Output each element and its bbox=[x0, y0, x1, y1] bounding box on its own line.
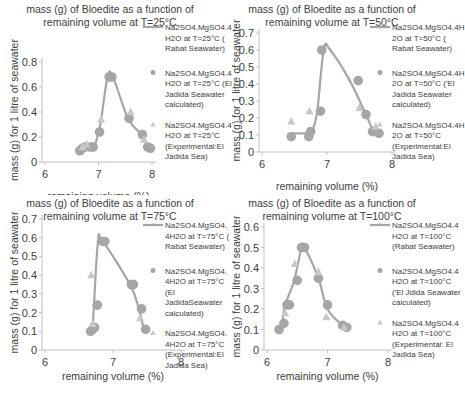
triangle-marker-icon bbox=[281, 309, 289, 317]
legend-label: Na2SO4.MgSO4.4 bbox=[392, 267, 459, 276]
legend-label: 2O at T=50°C ( bbox=[392, 34, 446, 43]
y-axis-label: mass (g) for 1 litre of seawater bbox=[232, 215, 242, 357]
y-tick-label: 0.2 bbox=[22, 307, 37, 319]
y-tick-label: 0.6 bbox=[22, 81, 37, 93]
y-tick-label: 0 bbox=[31, 156, 37, 168]
legend: Na2SO4.MgSO4.4H2O at T=50°C (Rabat Seawa… bbox=[370, 23, 465, 161]
y-axis-label: mass (g) for 1 litre of seawater bbox=[8, 39, 20, 181]
legend-label: 2O at T=50°C bbox=[392, 131, 441, 140]
legend-label: Rabat Seawater) bbox=[165, 242, 225, 251]
triangle-marker-icon bbox=[150, 330, 155, 335]
circle-marker-icon bbox=[138, 130, 148, 140]
chart-panel-4: mass (g) of Bloedite as a function ofrem… bbox=[232, 195, 465, 395]
x-axis-label: remaining volume (%) bbox=[276, 370, 378, 382]
circle-marker-icon bbox=[141, 325, 151, 335]
chart-title: remaining volume at T=75°C bbox=[43, 210, 177, 222]
legend-label: H2O at T=100°C bbox=[392, 329, 452, 338]
y-tick-label: 0.1 bbox=[244, 324, 259, 336]
circle-marker-icon bbox=[323, 300, 333, 310]
legend-label: (Rabat Seawater) bbox=[392, 242, 455, 251]
x-axis-label: remaining volume (%) bbox=[62, 370, 164, 382]
chart-title: mass (g) of Bloedite as a function of bbox=[248, 3, 416, 15]
legend-label: (Experimental:El bbox=[165, 142, 224, 151]
y-tick-label: 0.5 bbox=[22, 250, 37, 262]
legend: Na2SO4.MgSO4.4H2O at T=75°C (Rabat Seawa… bbox=[143, 221, 230, 370]
y-tick-label: 0.6 bbox=[244, 221, 259, 233]
circle-marker-icon bbox=[95, 127, 105, 137]
legend-label: H2O at T=25°C (El bbox=[165, 79, 232, 88]
legend-label: Na2SO4.MgSO4.4H bbox=[392, 69, 465, 78]
circle-marker-icon bbox=[146, 143, 156, 153]
circle-marker-icon bbox=[93, 300, 103, 310]
x-tick-label: 7 bbox=[324, 356, 330, 368]
legend-circle-icon bbox=[151, 70, 156, 75]
x-tick-label: 7 bbox=[110, 356, 116, 368]
legend-label: ('El Jdida Seawater bbox=[392, 288, 461, 297]
circle-marker-icon bbox=[292, 276, 302, 286]
circle-marker-icon bbox=[286, 132, 296, 142]
y-tick-label: 0.1 bbox=[22, 325, 37, 337]
y-tick-label: 0.3 bbox=[244, 283, 259, 295]
triangle-marker-icon bbox=[322, 313, 330, 321]
legend-item: Na2SO4.MgSO4.4H2O at T=50°C (Rabat Seawa… bbox=[370, 23, 465, 53]
y-tick-label: 0.3 bbox=[22, 288, 37, 300]
legend-label: H2O at T=25°C bbox=[165, 131, 220, 140]
legend-item: Na2SO4.MgSO4.4H2O at T=25°C (ElJadida Se… bbox=[151, 69, 233, 110]
chart-title: mass (g) of Bloedite as a function of bbox=[248, 197, 416, 209]
chart-panel-2: mass (g) of Bloedite as a function ofrem… bbox=[232, 0, 465, 195]
circle-marker-icon bbox=[317, 45, 327, 55]
x-tick-label: 8 bbox=[385, 356, 391, 368]
legend-label: H2O at T=100°C bbox=[392, 232, 452, 241]
legend-label: Na2SO4.MgSO4.4 bbox=[165, 69, 232, 78]
legend-label: 4H2O at T=75°C bbox=[165, 340, 225, 349]
chart-panel-1: mass (g) of Bloedite as a function ofrem… bbox=[0, 0, 232, 195]
y-tick-label: 0.7 bbox=[22, 213, 37, 225]
legend-label: (El bbox=[165, 288, 175, 297]
circle-marker-icon bbox=[306, 127, 316, 137]
triangle-marker-icon bbox=[97, 115, 105, 123]
circle-marker-icon bbox=[374, 129, 384, 139]
circle-marker-icon bbox=[129, 280, 139, 290]
legend-label: 4H2O at T=75°C ( bbox=[165, 232, 230, 241]
legend-item: Na2SO4.MgSO4.4H2O at T=75°C(Experimental… bbox=[150, 329, 227, 370]
legend-item: Na2SO4.MgSO4.4H2O at T=100°C(Rabat Seawa… bbox=[370, 221, 459, 251]
x-tick-label: 6 bbox=[259, 158, 265, 170]
circle-marker-icon bbox=[361, 110, 371, 120]
legend-label: calculated) bbox=[392, 100, 431, 109]
circle-marker-icon bbox=[107, 72, 117, 82]
legend-label: Na2SO4.MgSO4. bbox=[165, 267, 227, 276]
legend-circle-icon bbox=[378, 268, 383, 273]
triangle-marker-icon bbox=[305, 107, 313, 115]
legend-item: Na2SO4.MgSO4.4H2O at T=75°C (Rabat Seawa… bbox=[143, 221, 230, 251]
x-tick-label: 8 bbox=[149, 168, 155, 180]
legend-item: Na2SO4.MgSO4.4H2O at T=50°C(Experimental… bbox=[377, 121, 464, 162]
y-tick-label: 0.4 bbox=[22, 269, 37, 281]
x-tick-label: 7 bbox=[95, 168, 101, 180]
legend-label: Na2SO4.MgSO4.4 bbox=[392, 319, 459, 328]
legend-item: Na2SO4.MgSO4.4H2O at T=25°C(Experimental… bbox=[150, 121, 232, 162]
triangle-marker-icon bbox=[87, 271, 95, 279]
legend-label: Na2SO4.MgSO4.4 bbox=[165, 121, 232, 130]
y-tick-label: 0.4 bbox=[244, 262, 259, 274]
chart-panel-3: mass (g) of Bloedite as a function ofrem… bbox=[0, 195, 232, 395]
y-tick-label: 0.5 bbox=[244, 242, 259, 254]
series-line bbox=[293, 44, 379, 134]
legend-label: Jadida Sea) bbox=[392, 152, 435, 161]
legend-label: (Experimental: El bbox=[392, 340, 453, 349]
legend-label: Jadida Seawater bbox=[165, 90, 225, 99]
x-axis-label: remaining volume (%) bbox=[276, 180, 378, 192]
legend-circle-icon bbox=[378, 70, 383, 75]
legend-label: Na2SO4.MgSO4. bbox=[165, 221, 227, 230]
y-tick-label: 0 bbox=[253, 344, 259, 356]
series-line bbox=[278, 243, 347, 331]
chart-title: mass (g) of Bloedite as a function of bbox=[26, 3, 194, 15]
legend-label: Na2SO4.MgSO4.4 bbox=[165, 23, 232, 32]
y-tick-label: 0.6 bbox=[22, 232, 37, 244]
triangle-marker-icon bbox=[150, 122, 155, 127]
triangle-marker-icon bbox=[287, 117, 295, 125]
legend-label: Na2SO4.MgSO4.4H bbox=[392, 23, 465, 32]
x-tick-label: 6 bbox=[264, 356, 270, 368]
circle-marker-icon bbox=[100, 237, 110, 247]
y-tick-label: 0 bbox=[31, 344, 37, 356]
legend-item: Na2SO4.MgSO4.4H2O at T=25°C (Rabat Seawa… bbox=[143, 23, 232, 53]
